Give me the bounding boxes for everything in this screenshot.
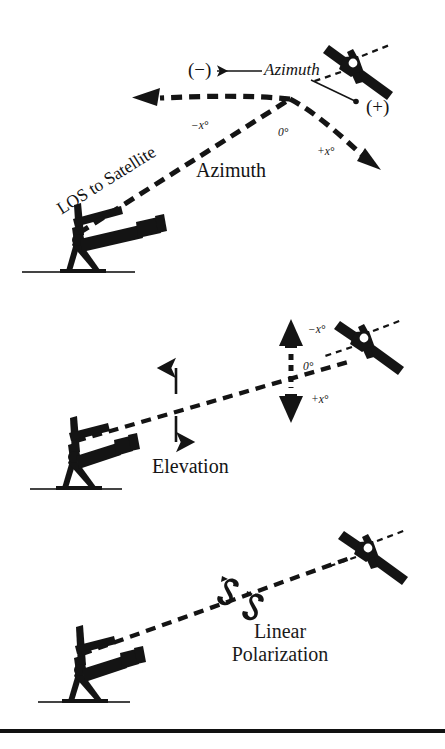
bottom-horizontal-rule	[0, 729, 445, 733]
azimuth-angle-negative: −x°	[191, 120, 208, 132]
elevation-angle-positive: +x°	[311, 394, 328, 406]
polarization-rotation-icon	[217, 576, 264, 620]
panel-azimuth: (−) Azimuth (+) −x° 0° +x° LOS to Satell…	[0, 0, 445, 290]
azimuth-callout-right-dot	[353, 99, 359, 105]
panel-elevation: −x° 0° +x° Elevation	[0, 290, 445, 510]
antenna-pointing-figure: (−) Azimuth (+) −x° 0° +x° LOS to Satell…	[0, 0, 445, 749]
azimuth-callout-label: Azimuth	[264, 61, 320, 78]
polarization-caption: Linear Polarization	[200, 620, 360, 666]
panel-polarization: Linear Polarization	[0, 510, 445, 725]
azimuth-positive-sign: (+)	[366, 97, 389, 116]
azimuth-negative-arc	[160, 96, 290, 99]
panel-azimuth-graphics	[0, 0, 445, 290]
azimuth-angle-positive: +x°	[317, 146, 334, 158]
panel-polarization-graphics	[0, 510, 445, 725]
azimuth-callout-right-line	[311, 80, 355, 101]
satellite-icon	[323, 45, 393, 100]
los-to-satellite-line	[76, 362, 348, 441]
azimuth-positive-arrowhead	[357, 148, 381, 170]
satellite-icon	[334, 321, 404, 375]
satellite-icon	[338, 531, 408, 585]
elevation-angle-zero: 0°	[303, 361, 313, 373]
polarization-caption-line1: Linear	[200, 620, 360, 643]
azimuth-caption: Azimuth	[196, 160, 266, 180]
elevation-caption: Elevation	[152, 456, 229, 476]
polarization-caption-line2: Polarization	[200, 643, 360, 666]
elevation-angle-negative: −x°	[308, 324, 325, 336]
azimuth-angle-zero: 0°	[278, 127, 288, 139]
azimuth-negative-arrowhead	[132, 88, 160, 106]
azimuth-negative-sign: (−)	[188, 60, 211, 79]
panel-elevation-graphics	[0, 290, 445, 510]
